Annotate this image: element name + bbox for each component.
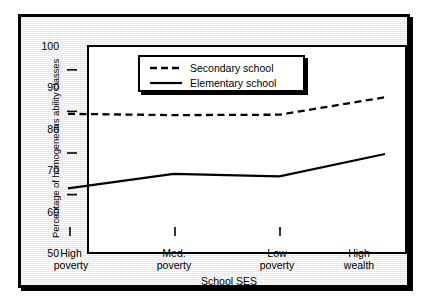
figure-root: Percentage of homogeneous ability classe…: [0, 0, 428, 304]
legend-label-secondary-school: Secondary school: [190, 62, 273, 74]
legend-item-elementary-school: Elementary school: [140, 75, 303, 90]
x-tick-line1: Low: [234, 247, 320, 259]
x-tick-label-low-poverty: Low poverty: [234, 247, 320, 271]
x-tick-label-high-wealth: High wealth: [316, 247, 402, 271]
solid-line-swatch-icon: [149, 78, 183, 88]
x-tick-line1: High: [28, 247, 114, 259]
y-tick-label-100: 100: [35, 40, 59, 52]
y-tick-label-80: 80: [35, 123, 59, 135]
x-tick-label-high-poverty: High poverty: [28, 247, 114, 271]
figure-frame: Percentage of homogeneous ability classe…: [18, 14, 410, 288]
x-tick-line2: poverty: [28, 259, 114, 271]
chart-legend: Secondary school Elementary school: [138, 55, 305, 92]
x-tick-line2: poverty: [234, 259, 320, 271]
y-tick-label-60: 60: [35, 206, 59, 218]
dashed-line-swatch-icon: [149, 63, 183, 73]
x-tick-line1: Med.: [131, 247, 217, 259]
x-tick-label-med-poverty: Med. poverty: [131, 247, 217, 271]
y-tick-label-90: 90: [35, 81, 59, 93]
x-axis-title: School SES: [69, 275, 389, 287]
x-tick-line2: poverty: [131, 259, 217, 271]
x-tick-line1: High: [316, 247, 402, 259]
x-tick-line2: wealth: [316, 259, 402, 271]
y-axis-title: Percentage of homogeneous ability classe…: [50, 44, 61, 254]
legend-item-secondary-school: Secondary school: [140, 60, 303, 75]
y-tick-label-70: 70: [35, 164, 59, 176]
legend-label-elementary-school: Elementary school: [190, 77, 276, 89]
